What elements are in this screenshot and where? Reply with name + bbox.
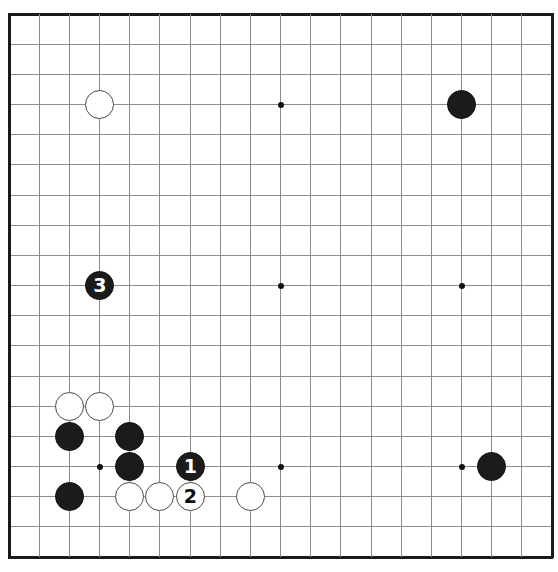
stone-black[interactable] [477, 452, 506, 481]
move-number-label: 2 [184, 487, 197, 506]
stone-white[interactable] [145, 482, 174, 511]
star-point [278, 102, 284, 108]
star-point [459, 283, 465, 289]
stone-white[interactable] [55, 392, 84, 421]
stone-white[interactable] [85, 392, 114, 421]
star-point [459, 464, 465, 470]
grid-line-vertical [310, 14, 311, 557]
grid-line-vertical [250, 14, 251, 557]
board-border-vertical [551, 13, 554, 558]
star-point [97, 464, 103, 470]
star-point [278, 464, 284, 470]
board-border-vertical [8, 13, 11, 558]
go-board-surface[interactable]: 312 [0, 0, 558, 572]
stone-black-move-3[interactable]: 3 [85, 271, 114, 300]
grid-line-vertical [521, 14, 522, 557]
grid-line-vertical [159, 14, 160, 557]
grid-line-vertical [371, 14, 372, 557]
grid-line-vertical [220, 14, 221, 557]
grid-line-vertical [340, 14, 341, 557]
stone-white[interactable] [236, 482, 265, 511]
stone-white[interactable] [115, 482, 144, 511]
star-point [278, 283, 284, 289]
stone-black[interactable] [55, 422, 84, 451]
stone-white-move-2[interactable]: 2 [176, 482, 205, 511]
go-board-diagram: 312 [0, 0, 558, 572]
grid-line-vertical [69, 14, 70, 557]
stone-black[interactable] [55, 482, 84, 511]
stone-black-move-1[interactable]: 1 [176, 452, 205, 481]
stone-black[interactable] [115, 422, 144, 451]
stone-black[interactable] [115, 452, 144, 481]
move-number-label: 1 [184, 457, 197, 476]
grid-line-vertical [431, 14, 432, 557]
stone-white[interactable] [85, 90, 114, 119]
grid-line-vertical [401, 14, 402, 557]
stone-black[interactable] [447, 90, 476, 119]
move-number-label: 3 [93, 276, 106, 295]
grid-line-vertical [39, 14, 40, 557]
